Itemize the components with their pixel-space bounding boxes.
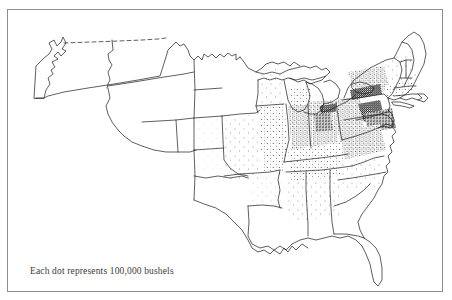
outline-idaho-east bbox=[107, 40, 113, 88]
outline-colorado-block bbox=[142, 118, 194, 152]
outline-pacific-northwest bbox=[34, 37, 66, 98]
map-dots-layer bbox=[194, 52, 418, 222]
map-area: Each dot represents 100,000 bushels bbox=[8, 10, 444, 293]
dots-illinois bbox=[260, 104, 288, 174]
outline-iowa-illinois bbox=[256, 80, 258, 113]
outline-florida bbox=[362, 238, 382, 286]
dots-plains bbox=[194, 116, 226, 172]
outline-northern-tier bbox=[36, 42, 240, 98]
outline-montana-south bbox=[108, 72, 194, 86]
outline-dakota-divider bbox=[194, 88, 222, 90]
figure-frame: Each dot represents 100,000 bushels bbox=[7, 9, 443, 292]
map-legend-caption: Each dot represents 100,000 bushels bbox=[30, 266, 174, 276]
outline-minnesota bbox=[240, 57, 300, 72]
dots-ohio-core bbox=[314, 112, 333, 132]
dots-iowa-missouri bbox=[222, 114, 260, 182]
figure-container: Each dot represents 100,000 bushels bbox=[0, 0, 452, 300]
boundary-canada-dashed bbox=[64, 38, 166, 43]
us-dot-density-map bbox=[8, 10, 444, 293]
dots-arkansas bbox=[248, 174, 282, 208]
outline-louisiana bbox=[248, 206, 292, 250]
dots-deep-south bbox=[284, 176, 342, 222]
outline-wyoming-colorado bbox=[106, 88, 196, 152]
outline-long-island bbox=[392, 102, 414, 108]
